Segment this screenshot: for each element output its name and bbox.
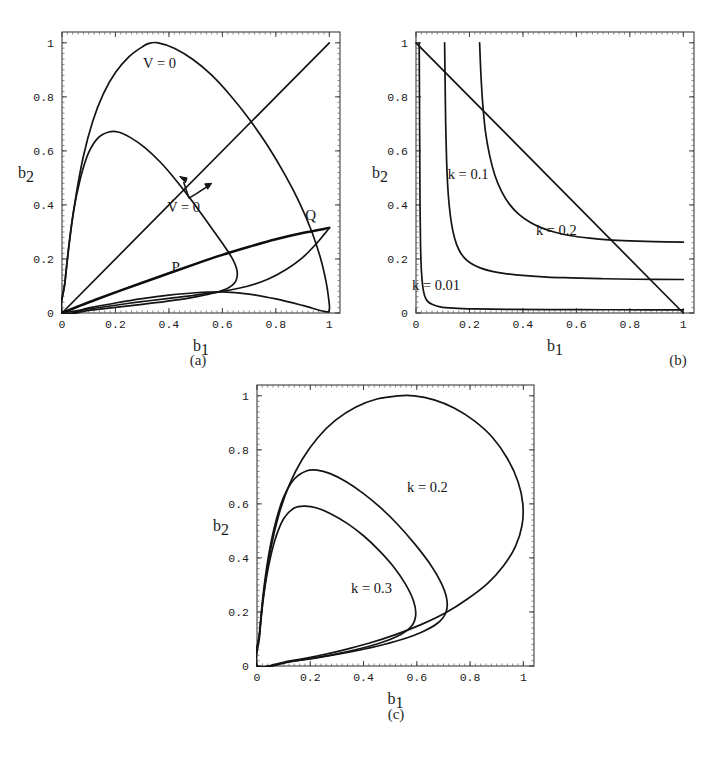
panel-b: 00.20.40.60.8100.20.40.60.81b1b2k = 0.1k…	[355, 0, 715, 385]
x-tick-label: 0.8	[265, 318, 286, 331]
x-tick-label: 0.2	[105, 318, 126, 331]
y-tick-label: 0.6	[387, 145, 408, 158]
x-tick-label: 0	[59, 318, 66, 331]
x-tick-label: 0.8	[619, 318, 640, 331]
x-tick-label: 1	[520, 671, 527, 684]
curve-2	[480, 43, 684, 242]
figure-root: 00.20.40.60.8100.20.40.60.81b1b2V = 0V̇ …	[0, 0, 715, 763]
x-tick-label: 0	[254, 671, 261, 684]
annotation-3: Q	[305, 207, 316, 223]
panel-b-caption: (b)	[648, 352, 708, 369]
x-tick-label: 0.2	[300, 671, 321, 684]
x-tick-label: 0.6	[212, 318, 233, 331]
panel-a: 00.20.40.60.8100.20.40.60.81b1b2V = 0V̇ …	[0, 0, 360, 385]
x-tick-label: 0.2	[459, 318, 480, 331]
arrow-up-left-head	[180, 177, 187, 183]
plot-frame	[257, 385, 534, 666]
y-tick-label: 0	[47, 307, 54, 320]
annotation-0: V = 0	[143, 55, 176, 71]
y-tick-label: 1	[242, 390, 249, 403]
annotation-2: k = 0.01	[412, 277, 460, 293]
y-tick-label: 0.2	[228, 606, 249, 619]
annotation-1: V̇ = 0	[167, 199, 200, 215]
panel-c-caption: (c)	[366, 706, 426, 723]
panel-c-plot: 00.20.40.60.8100.20.40.60.81b1b2k = 0.2k…	[196, 375, 556, 730]
annotation-2: P	[171, 259, 179, 275]
x-tick-label: 1	[326, 318, 333, 331]
y-tick-label: 1	[47, 37, 54, 50]
x-tick-label: 0	[413, 318, 420, 331]
panel-a-plot: 00.20.40.60.8100.20.40.60.81b1b2V = 0V̇ …	[0, 0, 360, 385]
panel-c: 00.20.40.60.8100.20.40.60.81b1b2k = 0.2k…	[196, 375, 556, 730]
annotation-1: k = 0.2	[536, 222, 577, 238]
y-axis-label: b2	[213, 517, 229, 538]
flow-arrows	[180, 177, 212, 199]
y-axis-label: b2	[18, 164, 34, 185]
x-tick-label: 0.6	[406, 671, 427, 684]
x-tick-label: 0.8	[460, 671, 481, 684]
curves-group	[255, 395, 523, 667]
y-tick-label: 0.8	[387, 91, 408, 104]
y-tick-label: 1	[401, 37, 408, 50]
annotation-1: k = 0.3	[351, 580, 392, 596]
x-tick-label: 0.4	[513, 318, 534, 331]
panel-b-plot: 00.20.40.60.8100.20.40.60.81b1b2k = 0.1k…	[355, 0, 715, 385]
panel-a-caption: (a)	[168, 352, 228, 369]
y-tick-label: 0	[242, 660, 249, 673]
curve-0	[255, 395, 523, 667]
y-tick-label: 0	[401, 307, 408, 320]
arrow-bend	[189, 194, 196, 198]
y-tick-label: 0.8	[228, 444, 249, 457]
x-axis-label: b1	[547, 337, 563, 358]
y-axis-label: b2	[372, 164, 388, 185]
x-tick-label: 0.4	[159, 318, 180, 331]
y-tick-label: 0.2	[387, 253, 408, 266]
y-tick-label: 0.6	[33, 145, 54, 158]
x-tick-label: 0.4	[353, 671, 374, 684]
y-tick-label: 0.4	[33, 199, 54, 212]
curve-3	[62, 228, 329, 313]
curve-4	[62, 228, 329, 313]
curves-group	[61, 42, 330, 314]
annotation-0: k = 0.1	[448, 166, 489, 182]
x-tick-label: 0.6	[566, 318, 587, 331]
arrow-up-right-shaft	[196, 187, 207, 195]
x-tick-label: 1	[680, 318, 687, 331]
curve-2	[62, 43, 329, 313]
y-tick-label: 0.8	[33, 91, 54, 104]
y-tick-label: 0.2	[33, 253, 54, 266]
annotation-0: k = 0.2	[407, 479, 448, 495]
y-tick-label: 0.4	[228, 552, 249, 565]
y-tick-label: 0.6	[228, 498, 249, 511]
y-tick-label: 0.4	[387, 199, 408, 212]
